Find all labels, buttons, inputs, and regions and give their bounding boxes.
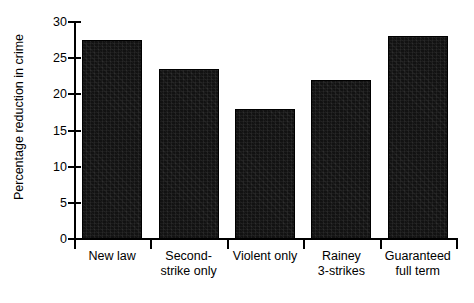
y-axis-tick <box>68 202 81 204</box>
bar <box>235 109 295 239</box>
category-label-line: strike only <box>150 264 226 279</box>
category-label-line: Rainey <box>303 249 379 264</box>
category-label-line: full term <box>380 264 456 279</box>
category-label-line: Violent only <box>227 249 303 264</box>
x-axis-category-label: Violent only <box>227 249 303 264</box>
y-axis-tick <box>68 57 81 59</box>
y-axis-tick <box>68 130 81 132</box>
y-axis-tick <box>68 21 81 23</box>
y-axis-tick-label: 5 <box>27 196 67 210</box>
x-axis-tick <box>150 238 152 249</box>
x-axis-category-label: Rainey3-strikes <box>303 249 379 279</box>
x-axis-category-label: Guaranteedfull term <box>380 249 456 279</box>
x-axis-tick <box>227 238 229 249</box>
y-axis-tick-label: 20 <box>27 87 67 101</box>
plot-area: 051015202530 <box>74 22 456 239</box>
y-axis-tick-label: 25 <box>27 51 67 65</box>
x-axis-tick <box>74 238 76 249</box>
x-axis-tick <box>380 238 382 249</box>
y-axis-tick <box>68 93 81 95</box>
bar <box>159 69 219 239</box>
category-label-line: Guaranteed <box>380 249 456 264</box>
y-axis-tick-label: 30 <box>27 15 67 29</box>
y-axis-tick-label: 10 <box>27 160 67 174</box>
y-axis-title: Percentage reduction in crime <box>12 2 26 232</box>
bar <box>82 40 142 239</box>
x-axis-tick <box>303 238 305 249</box>
category-label-line: New law <box>74 249 150 264</box>
x-axis-category-label: Second-strike only <box>150 249 226 279</box>
bar-chart: Percentage reduction in crime 0510152025… <box>0 0 474 303</box>
x-axis-tick <box>456 238 458 249</box>
category-label-line: Second- <box>150 249 226 264</box>
category-label-line: 3-strikes <box>303 264 379 279</box>
bar <box>388 36 448 239</box>
y-axis-tick-label: 15 <box>27 124 67 138</box>
y-axis-tick <box>68 166 81 168</box>
bar <box>311 80 371 239</box>
x-axis-category-label: New law <box>74 249 150 264</box>
y-axis-tick-label: 0 <box>27 232 67 246</box>
